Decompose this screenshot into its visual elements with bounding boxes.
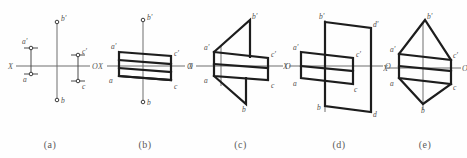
- label-b: b: [61, 96, 65, 105]
- caption-c: (c): [188, 139, 293, 150]
- caption-a: (a): [0, 139, 100, 150]
- panel-b: b' a' a c' c b X O (b): [95, 0, 195, 158]
- label-d-prime: d': [373, 20, 379, 29]
- projection-figure-sheet: b' a' a c' c b X O (a) b' a' a c': [0, 0, 467, 158]
- label-a: a: [204, 76, 208, 85]
- label-a-prime: a': [22, 37, 28, 46]
- point-a-prime: [29, 46, 33, 50]
- label-c: c: [453, 83, 457, 92]
- axis-label-x: X: [283, 62, 289, 71]
- label-a-prime: a': [390, 45, 396, 54]
- point-b-prime: [55, 20, 59, 24]
- label-c-prime: c': [174, 49, 179, 58]
- point-b: [55, 98, 59, 102]
- label-a-prime: a': [293, 43, 299, 52]
- point-b: [141, 100, 145, 104]
- label-b: b: [242, 105, 246, 114]
- panel-e: b' a' c' a c b X O (e): [383, 0, 467, 158]
- panel-d: b' d' a' c' a c b d X O (d): [283, 0, 395, 158]
- panel-b-drawing: b' a' a c' c b X O: [95, 0, 195, 130]
- label-c: c: [82, 82, 86, 91]
- triangle-lower: [214, 76, 246, 104]
- axis-label-x: X: [188, 62, 194, 71]
- label-a: a: [293, 79, 297, 88]
- label-c-prime: c': [271, 50, 276, 59]
- label-a-prime: a': [204, 43, 210, 52]
- parallelogram-rear: [325, 22, 371, 112]
- label-b-prime: b': [427, 12, 433, 21]
- point-c-prime: [76, 53, 80, 57]
- label-b: b: [317, 103, 321, 112]
- panel-c-drawing: b' a' a c' c b X O: [188, 0, 293, 130]
- axis-label-o: O: [462, 64, 467, 73]
- label-b: b: [147, 98, 151, 107]
- panel-e-drawing: b' a' c' a c b X O: [383, 0, 467, 130]
- label-c: c: [271, 81, 275, 90]
- caption-e: (e): [383, 139, 467, 150]
- label-b-prime: b': [252, 12, 258, 21]
- caption-d: (d): [283, 139, 395, 150]
- point-c: [76, 79, 80, 83]
- label-d: d: [373, 110, 377, 119]
- caption-b: (b): [95, 139, 195, 150]
- label-a: a: [23, 75, 27, 84]
- label-c-prime: c': [82, 47, 87, 56]
- label-c-prime: c': [356, 50, 361, 59]
- label-b-prime: b': [147, 13, 153, 22]
- label-b: b: [421, 106, 425, 115]
- label-a-prime: a': [111, 42, 117, 51]
- point-a: [29, 72, 33, 76]
- parallelogram-mid-edge: [301, 66, 353, 71]
- panel-c: b' a' a c' c b X O (c): [188, 0, 293, 158]
- point-b-prime: [141, 18, 145, 22]
- label-a: a: [390, 79, 394, 88]
- label-c: c: [174, 82, 178, 91]
- panel-d-drawing: b' d' a' c' a c b d X O: [283, 0, 395, 130]
- label-c: c: [354, 85, 358, 94]
- label-a: a: [109, 76, 113, 85]
- label-b-prime: b': [319, 12, 325, 21]
- parallelogram-inner-edge: [119, 68, 171, 72]
- axis-label-x: X: [97, 62, 104, 71]
- label-c-prime: c': [453, 51, 458, 60]
- label-b-prime: b': [61, 14, 67, 23]
- parallelogram-lower-edge: [119, 76, 171, 80]
- panel-a-drawing: b' a' a c' c b X O: [0, 0, 100, 130]
- parallelogram-mid-edge: [119, 60, 171, 64]
- axis-label-x: X: [7, 62, 14, 71]
- triangle-upper: [214, 20, 250, 57]
- panel-a: b' a' a c' c b X O (a): [0, 0, 100, 158]
